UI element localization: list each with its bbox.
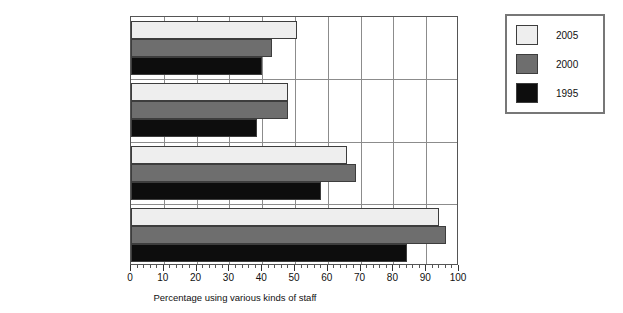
- x-tick-minor: [156, 265, 157, 268]
- x-tick-minor: [340, 265, 341, 268]
- x-tick-minor: [307, 265, 308, 268]
- legend-swatch-2005: [516, 25, 538, 45]
- legend-item-2005: 2005: [516, 24, 600, 46]
- x-tick-minor: [353, 265, 354, 268]
- bar-1995-paraprofessionals: [131, 182, 321, 200]
- x-tick-minor: [445, 265, 446, 268]
- x-tick-minor: [255, 265, 256, 268]
- x-axis-title: Percentage using various kinds of staff: [0, 292, 470, 303]
- bar-1995-students: [131, 244, 407, 262]
- x-tick-minor: [301, 265, 302, 268]
- bar-2005-students: [131, 208, 439, 226]
- x-tick-minor: [366, 265, 367, 268]
- legend-label-1995: 1995: [556, 88, 578, 99]
- legend: 200520001995: [505, 14, 605, 114]
- x-tick-minor: [176, 265, 177, 268]
- x-tick-minor: [386, 265, 387, 268]
- x-tick-minor: [248, 265, 249, 268]
- bar-1995-full-time-faculty: [131, 57, 262, 75]
- x-tick-minor: [150, 265, 151, 268]
- bar-2000-students: [131, 226, 446, 244]
- x-tick-minor: [235, 265, 236, 268]
- legend-label-2005: 2005: [556, 30, 578, 41]
- x-tick-minor: [287, 265, 288, 268]
- x-tick-major: [294, 265, 295, 271]
- legend-swatch-2000: [516, 54, 538, 74]
- x-tick-major: [261, 265, 262, 271]
- x-tick-minor: [432, 265, 433, 268]
- x-tick-minor: [419, 265, 420, 268]
- gridline-horizontal: [131, 142, 457, 143]
- legend-swatch-1995: [516, 83, 538, 103]
- x-tick-major: [327, 265, 328, 271]
- x-tick-minor: [412, 265, 413, 268]
- x-tick-minor: [379, 265, 380, 268]
- bar-2005-paraprofessionals: [131, 146, 347, 164]
- x-tick-minor: [333, 265, 334, 268]
- legend-item-1995: 1995: [516, 82, 600, 104]
- plot-area: [130, 16, 458, 265]
- x-tick-minor: [406, 265, 407, 268]
- x-tick-minor: [274, 265, 275, 268]
- x-tick-minor: [373, 265, 374, 268]
- x-tick-minor: [438, 265, 439, 268]
- bar-2000-full-time-faculty: [131, 39, 272, 57]
- x-tick-minor: [222, 265, 223, 268]
- bar-2000-paraprofessionals: [131, 164, 356, 182]
- x-tick-major: [360, 265, 361, 271]
- x-tick-minor: [169, 265, 170, 268]
- x-tick-minor: [202, 265, 203, 268]
- x-tick-major: [228, 265, 229, 271]
- x-tick-minor: [209, 265, 210, 268]
- legend-label-2000: 2000: [556, 59, 578, 70]
- x-tick-minor: [281, 265, 282, 268]
- x-tick-major: [458, 265, 459, 271]
- x-tick-minor: [346, 265, 347, 268]
- x-tick-minor: [451, 265, 452, 268]
- x-axis: 0102030405060708090100: [130, 265, 458, 295]
- bar-2005-full-time-faculty: [131, 21, 297, 39]
- gridline-horizontal: [131, 204, 457, 205]
- x-tick-major: [196, 265, 197, 271]
- x-tick-minor: [268, 265, 269, 268]
- bar-chart: Full-time facultyPart-time facultyParapr…: [0, 0, 623, 313]
- x-tick-minor: [189, 265, 190, 268]
- gridline-horizontal: [131, 79, 457, 80]
- x-tick-label-100: 100: [438, 272, 478, 283]
- x-tick-major: [425, 265, 426, 271]
- x-tick-major: [392, 265, 393, 271]
- x-tick-minor: [215, 265, 216, 268]
- x-tick-minor: [314, 265, 315, 268]
- x-tick-minor: [182, 265, 183, 268]
- x-tick-major: [130, 265, 131, 271]
- x-tick-minor: [137, 265, 138, 268]
- x-tick-minor: [399, 265, 400, 268]
- x-tick-minor: [320, 265, 321, 268]
- bar-1995-part-time-faculty: [131, 119, 257, 137]
- x-tick-major: [163, 265, 164, 271]
- x-tick-minor: [143, 265, 144, 268]
- bar-2005-part-time-faculty: [131, 83, 288, 101]
- legend-item-2000: 2000: [516, 53, 600, 75]
- bar-2000-part-time-faculty: [131, 101, 288, 119]
- x-tick-minor: [242, 265, 243, 268]
